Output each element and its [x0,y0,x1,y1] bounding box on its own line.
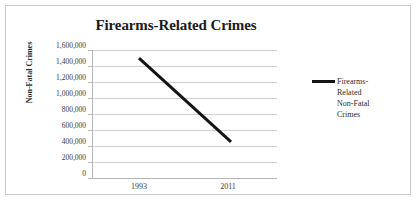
chart-title: Firearms-Related Crimes [66,17,286,34]
y-tick-label: 600,000 [30,122,86,130]
legend-entry-label: Firearms- Related Non-Fatal Crimes [337,76,410,120]
chart-frame: Firearms-Related Crimes Non-Fatal Crimes… [5,5,411,195]
y-tick-label: 400,000 [30,138,86,146]
chart-legend: Firearms- Related Non-Fatal Crimes [312,76,410,120]
x-tick-label-1993: 1993 [114,182,164,191]
legend-label-line: Related [337,87,410,98]
y-tick-label: 0 [30,170,86,178]
y-tick-label: 1,200,000 [30,74,86,82]
series-line-firearms-related-non-fatal-crimes [139,58,231,142]
y-axis-tick-labels: 1,600,000 1,400,000 1,200,000 1,000,000 … [30,46,86,176]
legend-label-line: Firearms- [337,76,410,87]
legend-label-line: Non-Fatal [337,98,410,109]
x-tick-label-2011: 2011 [203,182,253,191]
y-tick-label: 1,000,000 [30,90,86,98]
y-tick-label: 200,000 [30,154,86,162]
legend-line-swatch [312,80,335,83]
y-tick-label: 800,000 [30,106,86,114]
legend-entry: Firearms- Related Non-Fatal Crimes [312,76,410,120]
chart-data-series [93,50,277,179]
y-tick-label: 1,400,000 [30,58,86,66]
legend-label-line: Crimes [337,109,410,120]
y-tick-label: 1,600,000 [30,42,86,50]
